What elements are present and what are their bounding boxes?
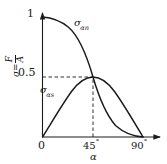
- y-axis-label: σ= F A: [6, 39, 26, 93]
- x-tick-90-value: 90: [131, 140, 144, 151]
- degree-symbol-90: °: [144, 138, 148, 146]
- degree-symbol-45: °: [96, 138, 100, 146]
- sigma-an-subscript: αn: [80, 24, 89, 32]
- y-axis-fraction: F A: [5, 55, 25, 64]
- x-tick-label-90: 90°: [131, 140, 147, 151]
- sigma-as-subscript: αs: [46, 91, 54, 99]
- y-axis-sigma: σ: [11, 71, 21, 77]
- y-axis-denominator: A: [16, 55, 25, 64]
- curve-label-sigma-alpha-s: σαs: [40, 85, 55, 98]
- y-axis-numerator: F: [5, 55, 14, 64]
- x-axis-label: α: [90, 152, 97, 162]
- x-tick-label-0: 0: [38, 140, 45, 151]
- y-tick-label-1: 1: [27, 8, 34, 19]
- stress-vs-angle-figure: 1 0.5 0 45° 90° α σ= F A σαn σαs: [0, 0, 167, 164]
- x-tick-label-45: 45°: [83, 140, 99, 151]
- y-axis-equals: =: [11, 63, 21, 71]
- x-tick-45-value: 45: [83, 140, 96, 151]
- curve-label-sigma-alpha-n: σαn: [74, 18, 89, 31]
